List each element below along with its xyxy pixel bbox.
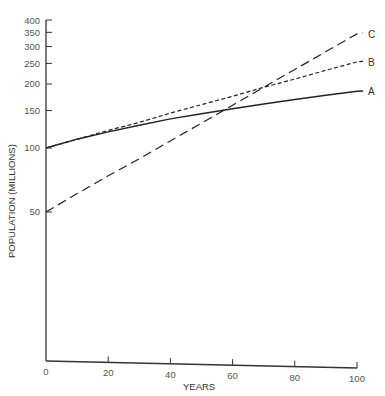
y-tick-label: 100 — [24, 142, 40, 153]
series-lines — [46, 33, 363, 212]
x-tick-label: 60 — [227, 370, 238, 381]
series-label-b: B — [368, 57, 375, 68]
x-tick-label: 0 — [43, 366, 48, 377]
x-tick-label: 20 — [103, 367, 114, 378]
y-tick-label: 400 — [24, 15, 40, 26]
x-tick-label: 100 — [349, 373, 365, 384]
y-tick-label: 250 — [24, 58, 40, 69]
y-tick-label: 200 — [24, 78, 40, 89]
y-tick-label: 350 — [24, 27, 40, 38]
x-tick-label: 80 — [290, 372, 301, 383]
series-line-c — [46, 33, 363, 212]
population-chart: 50100150200250300350400 020406080100 C B… — [0, 0, 385, 396]
series-label-a: A — [368, 86, 375, 97]
x-axis-title: YEARS — [183, 381, 215, 392]
series-labels: C B A — [368, 29, 375, 97]
y-tick-label: 150 — [24, 105, 40, 116]
axes — [46, 20, 357, 368]
x-axis-line — [46, 361, 357, 368]
series-label-c: C — [368, 29, 375, 40]
y-axis-ticks: 50100150200250300350400 — [24, 15, 52, 218]
series-line-b — [46, 61, 363, 148]
x-axis-ticks: 020406080100 — [43, 356, 365, 384]
y-tick-label: 300 — [24, 41, 40, 52]
series-line-a — [46, 91, 363, 148]
x-tick-label: 40 — [165, 369, 176, 380]
y-tick-label: 50 — [29, 206, 40, 217]
y-axis-title: POPULATION (MILLIONS) — [6, 144, 17, 258]
